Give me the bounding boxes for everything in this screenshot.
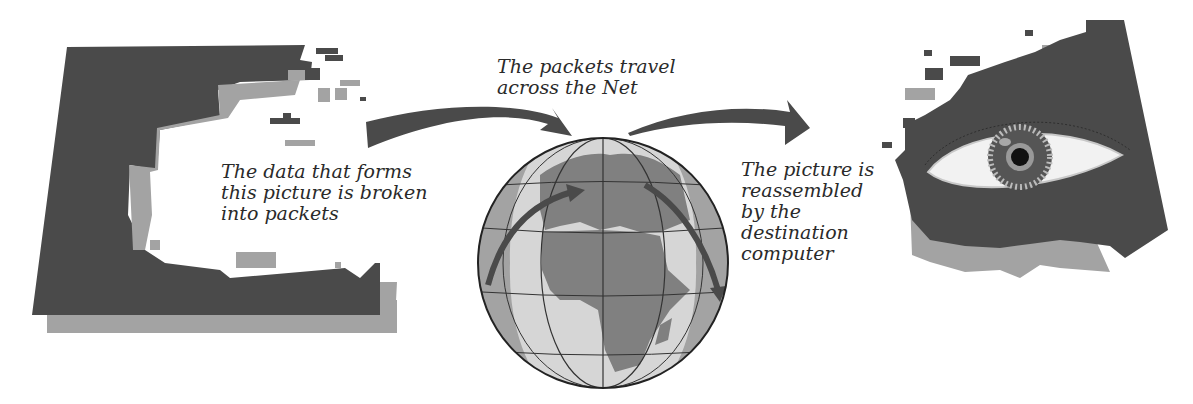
curved-arrow-right-icon (628, 100, 810, 145)
eye-picture-icon (882, 20, 1168, 278)
caption-transit: The packets travel across the Net (497, 56, 697, 98)
packet-diagram: The data that forms this picture is brok… (0, 0, 1193, 404)
globe-icon (478, 138, 728, 388)
curved-arrow-right-icon (366, 107, 572, 148)
caption-source: The data that forms this picture is brok… (221, 161, 451, 224)
caption-destination: The picture is reassembled by the destin… (741, 159, 901, 264)
